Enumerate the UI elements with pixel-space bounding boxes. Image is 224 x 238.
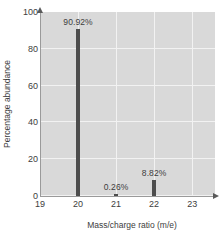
gridline-horizontal [40, 158, 215, 159]
bar-value-label: 90.92% [63, 17, 92, 27]
gridline-horizontal [40, 85, 215, 86]
x-axis-line [40, 196, 215, 197]
y-tick-label: 20 [14, 154, 38, 164]
gridline-vertical [116, 12, 117, 196]
x-tick-label: 22 [142, 199, 166, 209]
x-tick-label: 21 [104, 199, 128, 209]
x-tick-label: 19 [28, 199, 52, 209]
gridline-horizontal [40, 121, 215, 122]
plot-area [40, 12, 215, 196]
gridline-horizontal [40, 48, 215, 49]
y-tick-label: 80 [14, 44, 38, 54]
x-tick-label: 20 [66, 199, 90, 209]
y-axis-line [40, 12, 41, 196]
y-tick-label: 60 [14, 81, 38, 91]
bar-value-label: 8.82% [142, 168, 167, 178]
bar-value-label: 0.26% [104, 182, 129, 192]
mass-spectrum-chart: 020406080100 1920212223 90.92%0.26%8.82%… [0, 0, 224, 238]
x-tick-label: 23 [180, 199, 204, 209]
y-axis-title: Percentage abundance [2, 12, 14, 196]
x-axis-title: Mass/charge ratio (m/e) [40, 220, 224, 230]
bar [152, 180, 156, 196]
bar [76, 29, 80, 196]
y-tick-label: 100 [14, 7, 38, 17]
x-axis-arrow-icon [213, 193, 219, 199]
y-tick-label: 40 [14, 117, 38, 127]
gridline-vertical [192, 12, 193, 196]
